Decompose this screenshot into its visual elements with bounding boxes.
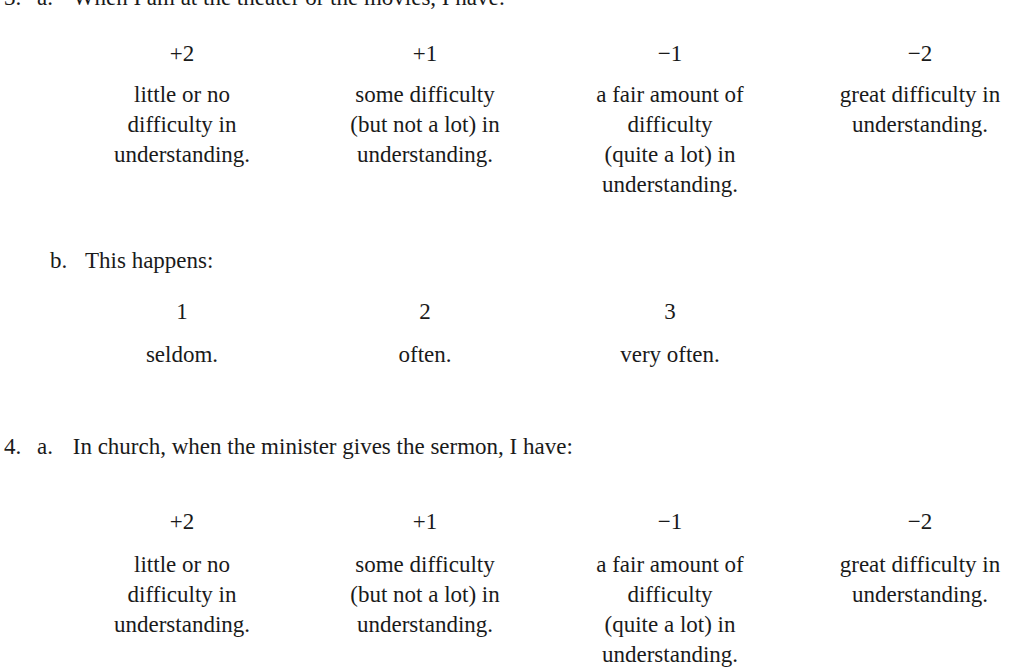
scale-score: +2 bbox=[122, 508, 242, 536]
scale-description: great difficulty in understanding. bbox=[800, 550, 1011, 610]
frequency-value: 3 bbox=[610, 298, 730, 326]
scale-description: a fair amount of difficulty (quite a lot… bbox=[550, 80, 790, 200]
sub-label: a. bbox=[37, 0, 53, 10]
scale-description: some difficulty (but not a lot) in under… bbox=[305, 80, 545, 170]
item-number: 4. bbox=[4, 434, 21, 459]
frequency-value: 2 bbox=[365, 298, 485, 326]
item-number: 3. bbox=[4, 0, 21, 10]
scale-score: −1 bbox=[610, 40, 730, 68]
scale-description: little or no difficulty in understanding… bbox=[62, 550, 302, 640]
sub-label: b. bbox=[50, 248, 67, 273]
question-text: When I am at the theater or the movies, … bbox=[73, 0, 505, 10]
scale-score: +2 bbox=[122, 40, 242, 68]
frequency-label: seldom. bbox=[122, 341, 242, 369]
item-4-heading: 4. a. In church, when the minister gives… bbox=[4, 433, 573, 461]
scale-description: some difficulty (but not a lot) in under… bbox=[305, 550, 545, 640]
question-text: This happens: bbox=[85, 248, 213, 273]
scale-description: little or no difficulty in understanding… bbox=[62, 80, 302, 170]
item-3-heading: 3. a. When I am at the theater or the mo… bbox=[4, 0, 505, 12]
question-text: In church, when the minister gives the s… bbox=[73, 434, 573, 459]
scale-score: −2 bbox=[860, 40, 980, 68]
frequency-value: 1 bbox=[122, 298, 242, 326]
scale-description: great difficulty in understanding. bbox=[800, 80, 1011, 140]
scale-score: +1 bbox=[365, 508, 485, 536]
scale-score: −1 bbox=[610, 508, 730, 536]
frequency-label: often. bbox=[365, 341, 485, 369]
scale-score: −2 bbox=[860, 508, 980, 536]
frequency-label: very often. bbox=[610, 341, 730, 369]
scale-description: a fair amount of difficulty (quite a lot… bbox=[550, 550, 790, 670]
item-3b-heading: b. This happens: bbox=[50, 247, 213, 275]
sub-label: a. bbox=[37, 434, 53, 459]
scale-score: +1 bbox=[365, 40, 485, 68]
